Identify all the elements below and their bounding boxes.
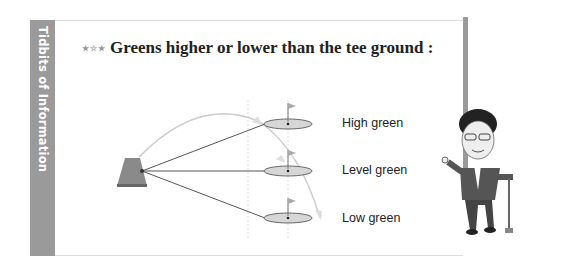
label-high-green: High green	[342, 116, 403, 130]
label-low-green: Low green	[342, 211, 400, 225]
label-level-green: Level green	[342, 163, 407, 177]
arrow-icon	[252, 116, 262, 125]
golf-diagram	[0, 0, 578, 268]
line-low	[142, 171, 265, 218]
arrow-icon	[276, 155, 285, 163]
golfer-caricature-illustration	[442, 109, 513, 235]
line-high	[142, 124, 265, 171]
arrow-icon	[315, 210, 322, 220]
